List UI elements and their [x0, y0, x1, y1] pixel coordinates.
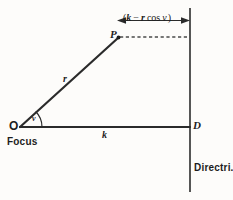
- dimension-arrow-right-icon: [181, 17, 190, 24]
- dimension-expression: (k−rcosv): [123, 13, 171, 23]
- expr-angle-v: v: [162, 12, 166, 23]
- angle-v-label: v: [32, 115, 36, 123]
- point-d-label: D: [193, 120, 201, 131]
- conic-section-diagram: P O D r k v Focus Directri. (k−rcosv): [0, 0, 233, 200]
- point-p-marker: [117, 36, 121, 40]
- angle-v-arc: [36, 112, 42, 128]
- segment-r-label: r: [63, 74, 67, 84]
- point-o-label: O: [9, 120, 18, 132]
- expr-cos: cos: [147, 12, 160, 23]
- expr-close-paren: ): [168, 12, 171, 23]
- expr-r-term: r: [141, 12, 145, 23]
- focus-label: Focus: [7, 137, 37, 147]
- expr-minus: −: [133, 12, 139, 23]
- segment-k-label: k: [102, 130, 107, 140]
- expr-k-term: k: [126, 12, 131, 23]
- directrix-label: Directri.: [194, 163, 233, 173]
- point-p-label: P: [110, 29, 117, 40]
